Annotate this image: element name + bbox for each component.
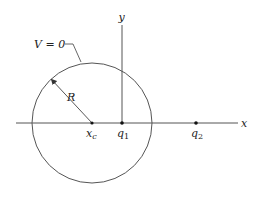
potential-leader-line <box>65 44 81 62</box>
center-label-sub: c <box>92 132 97 141</box>
center-point <box>90 121 93 124</box>
q2-label: q2 <box>191 127 203 141</box>
diagram-canvas: x y V = 0 R xc q1 q2 <box>0 0 264 199</box>
q1-label-sub: 1 <box>124 132 129 141</box>
center-label: xc <box>86 127 97 141</box>
q1-label: q1 <box>117 127 129 141</box>
potential-label: V = 0 <box>34 38 65 51</box>
potential-label-text: V = 0 <box>34 38 65 51</box>
radius-label: R <box>66 91 75 104</box>
q2-label-main: q <box>191 127 198 140</box>
q2-label-sub: 2 <box>198 132 203 141</box>
charge-q1-point <box>120 121 124 125</box>
x-axis-label: x <box>241 117 248 130</box>
q1-label-main: q <box>117 127 124 140</box>
charge-q2-point <box>194 121 198 125</box>
y-axis-label: y <box>118 11 126 24</box>
